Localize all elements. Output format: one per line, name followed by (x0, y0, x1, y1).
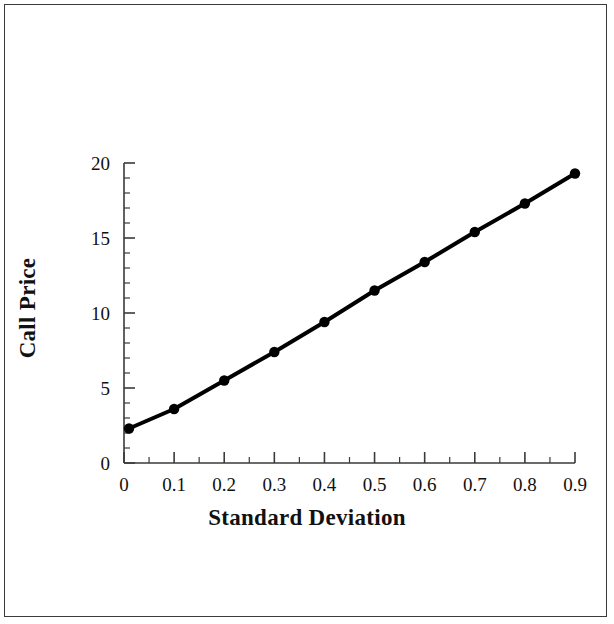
x-axis-ticks (124, 452, 575, 463)
data-point-markers (124, 168, 580, 433)
axes-group (124, 163, 575, 463)
data-point (570, 168, 580, 178)
y-tick-label: 0 (101, 453, 111, 474)
y-axis-ticks (124, 163, 135, 463)
data-point (269, 347, 279, 357)
data-point (319, 317, 329, 327)
x-tick-label: 0.3 (262, 474, 286, 495)
y-axis-tick-labels: 05101520 (91, 153, 110, 474)
data-point (169, 404, 179, 414)
x-tick-label: 0.7 (463, 474, 487, 495)
data-point (419, 257, 429, 267)
data-point (470, 227, 480, 237)
y-axis-title: Call Price (15, 218, 41, 398)
x-tick-label: 0.5 (363, 474, 387, 495)
data-series-line (129, 174, 575, 429)
x-tick-label: 0.2 (212, 474, 236, 495)
y-tick-label: 20 (91, 153, 110, 174)
x-tick-label: 0 (119, 474, 129, 495)
figure-container: 05101520 00.10.20.30.40.50.60.70.80.9 St… (0, 0, 614, 624)
data-point (520, 198, 530, 208)
data-point (124, 423, 134, 433)
x-tick-label: 0.9 (563, 474, 587, 495)
x-axis-title: Standard Deviation (0, 505, 614, 531)
y-tick-label: 10 (91, 303, 110, 324)
x-tick-label: 0.4 (313, 474, 337, 495)
y-tick-label: 5 (101, 378, 111, 399)
data-point (219, 375, 229, 385)
data-point (369, 285, 379, 295)
y-tick-label: 15 (91, 228, 110, 249)
x-tick-label: 0.1 (162, 474, 186, 495)
x-tick-label: 0.6 (413, 474, 437, 495)
x-axis-tick-labels: 00.10.20.30.40.50.60.70.80.9 (119, 474, 587, 495)
x-tick-label: 0.8 (513, 474, 537, 495)
